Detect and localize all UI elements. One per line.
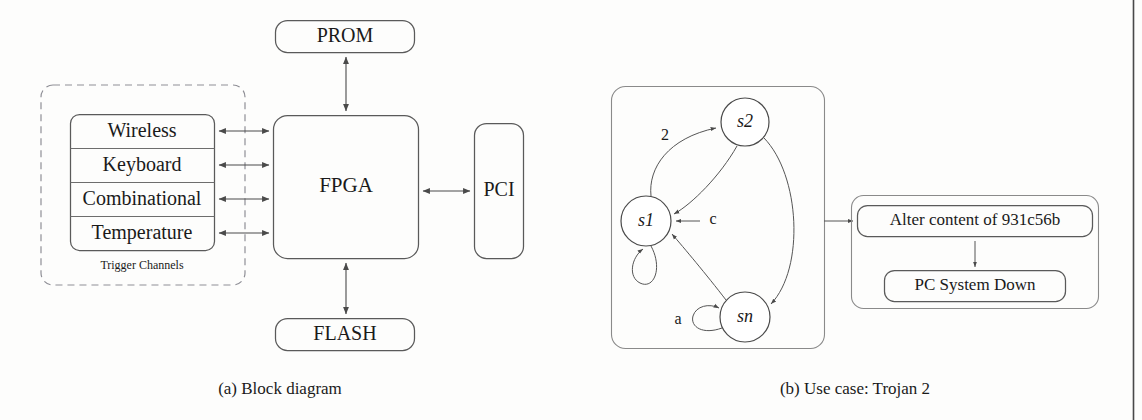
figure-canvas: Wireless Keyboard Combinational Temperat…	[0, 0, 1142, 420]
prom-block-label: PROM	[317, 24, 374, 46]
trigger-channel-label-keyboard: Keyboard	[103, 153, 182, 176]
state-label-s1: s1	[638, 210, 654, 230]
caption-panel-a: (a) Block diagram	[218, 379, 342, 398]
transition-s2-to-sn	[764, 138, 794, 304]
figure-page: Wireless Keyboard Combinational Temperat…	[0, 0, 1142, 420]
payload-step-alter-label: Alter content of 931c56b	[890, 210, 1060, 229]
self-loop-sn	[693, 306, 722, 331]
flash-block-label: FLASH	[313, 322, 376, 344]
state-label-sn: sn	[737, 306, 753, 326]
state-label-s2: s2	[737, 111, 753, 131]
transition-label-2: 2	[661, 126, 669, 143]
trigger-channels-group-label: Trigger Channels	[100, 258, 184, 272]
transition-label-c: c	[709, 210, 716, 227]
caption-panel-b: (b) Use case: Trojan 2	[780, 379, 930, 398]
transition-sn-to-s1	[672, 234, 726, 300]
trigger-channel-label-temperature: Temperature	[92, 221, 193, 244]
transition-s2-to-s1	[674, 146, 737, 214]
trigger-channel-label-combinational: Combinational	[83, 187, 202, 209]
self-loop-s1	[632, 246, 656, 284]
pci-block-label: PCI	[483, 178, 514, 200]
fpga-block-label: FPGA	[319, 173, 374, 197]
payload-step-down-label: PC System Down	[915, 275, 1036, 294]
trigger-channel-label-wireless: Wireless	[107, 119, 176, 141]
transition-label-a: a	[674, 310, 681, 327]
